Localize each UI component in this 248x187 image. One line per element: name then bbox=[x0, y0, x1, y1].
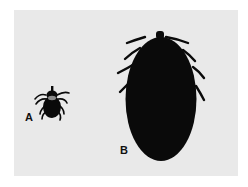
ticks-illustration bbox=[0, 0, 248, 187]
label-a: A bbox=[25, 112, 33, 123]
label-b: B bbox=[120, 145, 128, 156]
tick-a-body bbox=[43, 86, 61, 118]
